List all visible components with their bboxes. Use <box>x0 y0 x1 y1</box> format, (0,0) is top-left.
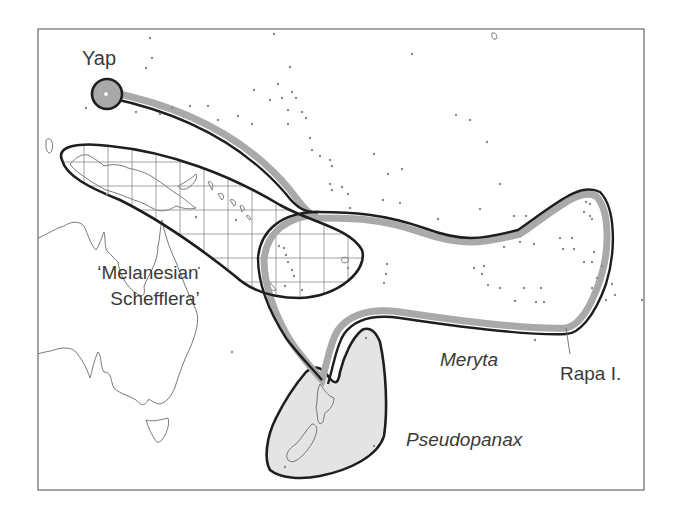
distribution-map <box>0 0 674 521</box>
pseudopanax-label: Pseudopanax <box>406 430 522 449</box>
meryta-label: Meryta <box>440 350 498 369</box>
yap-island <box>104 92 109 97</box>
rapa-island-label: Rapa I. <box>560 364 621 383</box>
melanesian-schefflera-label-line1: ‘Melanesian <box>88 263 208 282</box>
melanesian-schefflera-label-line2: Schefflera’ <box>100 289 210 308</box>
yap-label: Yap <box>82 48 116 68</box>
